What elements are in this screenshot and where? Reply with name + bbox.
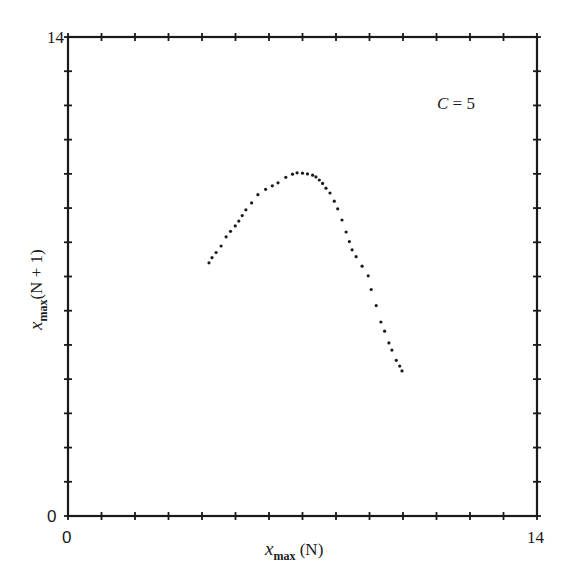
data-point bbox=[271, 184, 274, 187]
chart-canvas: 14 0 0 14 C = 5 xmax (N) xmax(N + 1) bbox=[0, 0, 572, 584]
data-point bbox=[318, 178, 321, 181]
y-axis-label: xmax(N + 1) bbox=[25, 249, 50, 331]
data-point bbox=[296, 171, 299, 174]
data-point bbox=[276, 181, 279, 184]
data-point bbox=[375, 304, 378, 307]
data-point bbox=[264, 188, 267, 191]
data-point bbox=[379, 320, 382, 323]
data-point bbox=[225, 235, 228, 238]
data-point bbox=[348, 240, 351, 243]
data-point bbox=[250, 201, 253, 204]
data-point bbox=[301, 172, 304, 175]
data-point bbox=[291, 173, 294, 176]
data-point bbox=[328, 191, 331, 194]
data-point bbox=[340, 218, 343, 221]
data-point bbox=[367, 274, 370, 277]
data-point bbox=[321, 182, 324, 185]
data-point bbox=[387, 341, 390, 344]
data-point bbox=[207, 261, 210, 264]
data-point bbox=[256, 193, 259, 196]
y-tick-label-max: 14 bbox=[47, 28, 65, 47]
data-point bbox=[383, 330, 386, 333]
parameter-annotation: C = 5 bbox=[437, 94, 475, 113]
annotation-variable: C bbox=[437, 94, 449, 113]
data-point bbox=[234, 224, 237, 227]
data-point bbox=[351, 248, 354, 251]
data-point bbox=[220, 244, 223, 247]
data-point bbox=[244, 208, 247, 211]
data-point bbox=[395, 359, 398, 362]
data-point bbox=[215, 251, 218, 254]
x-axis-label: xmax (N) bbox=[264, 538, 323, 563]
data-point bbox=[400, 369, 403, 372]
data-point bbox=[241, 214, 244, 217]
data-point bbox=[284, 176, 287, 179]
data-point bbox=[333, 200, 336, 203]
y-tick-label-min: 0 bbox=[47, 507, 56, 526]
data-point bbox=[355, 255, 358, 258]
data-point bbox=[237, 220, 240, 223]
data-point bbox=[345, 230, 348, 233]
annotation-value: = 5 bbox=[448, 94, 475, 113]
data-point bbox=[361, 265, 364, 268]
data-point bbox=[390, 349, 393, 352]
data-point bbox=[398, 365, 401, 368]
data-point bbox=[229, 230, 232, 233]
data-point bbox=[210, 256, 213, 259]
data-point bbox=[336, 207, 339, 210]
data-point bbox=[314, 175, 317, 178]
data-point bbox=[370, 288, 373, 291]
x-tick-label-max: 14 bbox=[527, 528, 545, 547]
data-points bbox=[207, 171, 403, 372]
data-point bbox=[324, 187, 327, 190]
data-point bbox=[306, 172, 309, 175]
data-point bbox=[311, 174, 314, 177]
x-tick-label-min: 0 bbox=[62, 528, 71, 547]
